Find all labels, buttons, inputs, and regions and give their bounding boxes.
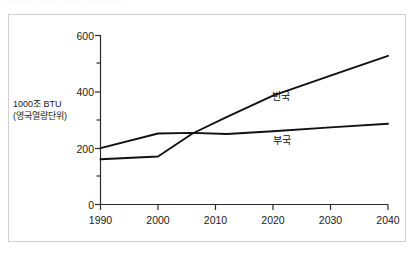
series-label-poor-countries: 빈국: [272, 88, 290, 103]
x-axis-ticks: [101, 205, 389, 211]
series-label-rich-countries: 부국: [273, 132, 291, 147]
x-tick-label-2030: 2030: [309, 214, 353, 226]
x-tick-label-2040: 2040: [366, 214, 410, 226]
y-tick-label-600: 600: [60, 30, 94, 42]
chart-figure: ··········· ······ ········· ···········…: [0, 0, 414, 255]
axes: [101, 35, 389, 205]
y-tick-label-0: 0: [60, 199, 94, 211]
x-tick-label-2010: 2010: [194, 214, 238, 226]
series-line-rich: [101, 124, 389, 148]
y-tick-label-400: 400: [60, 86, 94, 98]
series-line-poor: [101, 56, 389, 160]
x-tick-label-1990: 1990: [79, 214, 123, 226]
x-tick-label-2000: 2000: [136, 214, 180, 226]
x-tick-label-2020: 2020: [251, 214, 295, 226]
series-lines: [101, 56, 389, 160]
y-axis-ticks: [95, 36, 101, 205]
y-tick-label-200: 200: [60, 143, 94, 155]
